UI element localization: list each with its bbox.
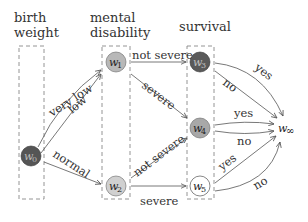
edge-label: yes	[215, 151, 240, 174]
svg-text:∞: ∞	[286, 125, 294, 136]
edge-label: severe	[140, 194, 179, 208]
column-header-survival: survival	[179, 19, 231, 34]
svg-text:birth: birth	[14, 10, 47, 25]
node-w1: w 1	[106, 52, 126, 72]
svg-text:weight: weight	[14, 25, 60, 40]
edge-label: yes	[233, 106, 253, 120]
edge-w4-winf-yes	[215, 122, 274, 125]
diagram-canvas: birth weight mental disability survival …	[0, 0, 308, 222]
edge-label: not severe	[132, 48, 193, 62]
svg-text:disability: disability	[90, 25, 151, 40]
edge-label: normal	[50, 147, 93, 181]
svg-text:3: 3	[201, 61, 206, 70]
node-w3: w 3	[190, 52, 210, 72]
node-w5: w 5	[190, 176, 210, 196]
edge-label: no	[220, 75, 240, 95]
edge-label: not severe	[130, 131, 187, 179]
svg-text:4: 4	[201, 127, 206, 136]
node-w4: w 4	[190, 118, 210, 138]
svg-text:5: 5	[201, 185, 206, 194]
group-birth-weight	[19, 46, 44, 199]
svg-text:0: 0	[32, 155, 37, 164]
edge-label: yes	[251, 60, 276, 83]
edge-label: no	[237, 134, 251, 148]
svg-text:mental: mental	[90, 10, 136, 25]
svg-text:survival: survival	[179, 19, 231, 34]
svg-text:2: 2	[117, 185, 122, 194]
node-w0: w 0	[21, 146, 41, 166]
column-header-mental-disability: mental disability	[90, 10, 151, 40]
svg-text:1: 1	[117, 61, 122, 70]
column-header-birth-weight: birth weight	[14, 10, 60, 40]
node-w-infinity: w ∞	[278, 122, 294, 136]
node-w2: w 2	[106, 176, 126, 196]
edge-label: no	[251, 173, 270, 192]
edge-label: severe	[139, 78, 178, 112]
